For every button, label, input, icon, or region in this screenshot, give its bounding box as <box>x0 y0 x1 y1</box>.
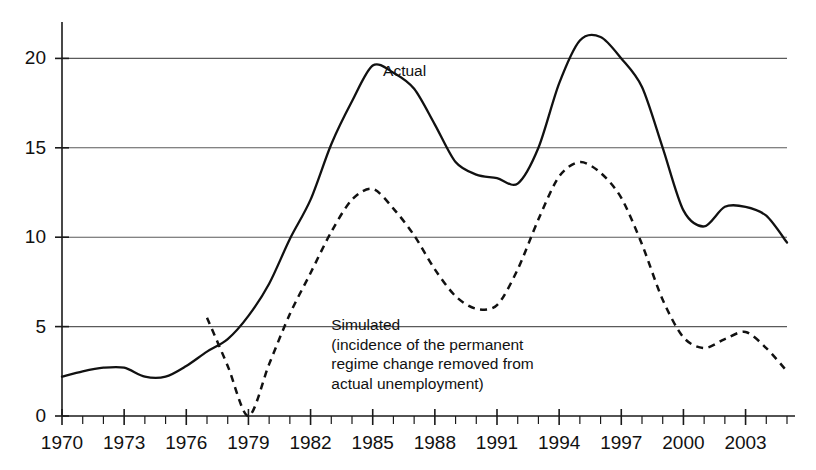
x-axis-tick-labels: 1970197319761979198219851988199119941997… <box>41 432 767 453</box>
x-tick-label-1982: 1982 <box>289 432 331 453</box>
actual-label: Actual <box>383 62 426 79</box>
simulated-label-line-1: Simulated <box>331 316 400 333</box>
x-tick-label-1991: 1991 <box>476 432 518 453</box>
y-tick-label-5: 5 <box>35 316 46 337</box>
simulated-label-line-3: regime change removed from <box>331 355 533 372</box>
x-tick-label-2000: 2000 <box>662 432 704 453</box>
chart-container: 05101520 1970197319761979198219851988199… <box>0 0 816 470</box>
x-tick-label-2003: 2003 <box>724 432 766 453</box>
simulated-label-line-2: (incidence of the permanent <box>331 336 524 353</box>
x-tick-label-1994: 1994 <box>538 432 581 453</box>
series-line-simulated <box>207 162 787 416</box>
x-tick-label-1976: 1976 <box>165 432 207 453</box>
y-tick-label-0: 0 <box>35 405 46 426</box>
simulated-label-line-4: actual unemployment) <box>331 375 484 392</box>
x-tick-label-1979: 1979 <box>227 432 269 453</box>
line-chart: 05101520 1970197319761979198219851988199… <box>0 0 816 470</box>
x-tick-label-1997: 1997 <box>600 432 642 453</box>
y-tick-label-15: 15 <box>25 137 46 158</box>
gridlines <box>62 58 787 326</box>
y-axis-tick-labels: 05101520 <box>25 47 46 426</box>
x-tick-label-1970: 1970 <box>41 432 83 453</box>
x-tick-label-1985: 1985 <box>352 432 394 453</box>
x-tick-label-1988: 1988 <box>414 432 456 453</box>
x-tick-label-1973: 1973 <box>103 432 145 453</box>
y-tick-label-20: 20 <box>25 47 46 68</box>
y-tick-label-10: 10 <box>25 226 46 247</box>
series-annotations: ActualSimulated(incidence of the permane… <box>331 62 533 391</box>
